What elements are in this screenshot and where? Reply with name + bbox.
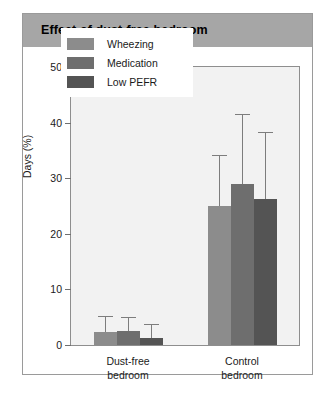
plot-inner: 01020304050 (71, 67, 299, 345)
y-tick-mark (65, 123, 71, 124)
bar (117, 331, 140, 345)
error-bar-cap (144, 324, 159, 325)
y-tick-mark (65, 289, 71, 290)
legend-label: Low PEFR (107, 76, 157, 88)
x-axis-label-line: Control (182, 354, 302, 368)
x-axis-label-line: Dust-free (68, 354, 188, 368)
error-bar-stem (219, 156, 220, 206)
y-tick-label: 0 (56, 339, 62, 351)
bar (208, 206, 231, 345)
y-tick-mark (65, 234, 71, 235)
legend-item: Medication (67, 53, 187, 72)
legend-label: Wheezing (107, 38, 154, 50)
error-bar-cap (235, 114, 250, 115)
chart-legend: WheezingMedicationLow PEFR (61, 28, 193, 97)
legend-item: Wheezing (67, 34, 187, 53)
error-bar-stem (265, 133, 266, 200)
legend-swatch (67, 76, 94, 88)
error-bar-cap (212, 155, 227, 156)
error-bar-cap (121, 317, 136, 318)
error-bar-cap (258, 132, 273, 133)
error-bar-stem (242, 115, 243, 183)
legend-swatch (67, 57, 94, 69)
error-bar-stem (105, 317, 106, 332)
chart-card: Effect of dust-free bedroom Days (%) 010… (22, 13, 313, 375)
y-tick-label: 20 (50, 228, 62, 240)
y-axis-title: Days (%) (21, 135, 33, 178)
bar (94, 332, 117, 345)
error-bar-stem (151, 325, 152, 338)
bar (140, 338, 163, 345)
legend-swatch (67, 38, 94, 50)
y-tick-label: 10 (50, 283, 62, 295)
x-axis-category-label: Dust-freebedroom (68, 354, 188, 382)
y-tick-mark (65, 345, 71, 346)
plot-area: 01020304050 (70, 66, 300, 346)
y-tick-label: 40 (50, 117, 62, 129)
error-bar-stem (128, 318, 129, 331)
error-bar-cap (98, 316, 113, 317)
x-axis-category-label: Controlbedroom (182, 354, 302, 382)
x-axis-label-line: bedroom (182, 368, 302, 382)
bar (231, 184, 254, 345)
legend-label: Medication (107, 57, 158, 69)
bar (254, 199, 277, 345)
legend-item: Low PEFR (67, 72, 187, 91)
x-axis-label-line: bedroom (68, 368, 188, 382)
y-tick-label: 30 (50, 172, 62, 184)
y-tick-mark (65, 178, 71, 179)
